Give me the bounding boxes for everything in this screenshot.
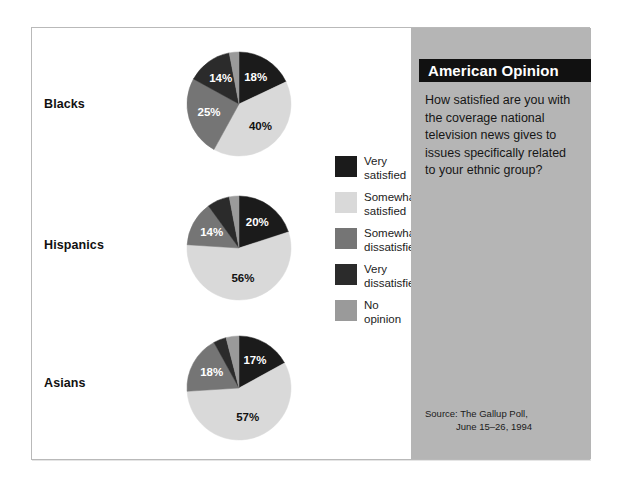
legend-swatch-somewhat-dissatisfied [335,228,357,249]
pie-group-hispanics: Hispanics 20%56%14%7%3% [32,176,332,316]
pie-chart-hispanics: 20%56%14%7%3% [148,178,332,320]
pie-slice-label: 17% [243,354,266,366]
panel-question-text: How satisfied are you with the coverage … [425,92,579,180]
pie-slice-label: 57% [236,411,259,423]
legend-label: No opinion [364,299,401,326]
pie-group-label: Hispanics [44,238,154,252]
pie-slice-label: 14% [209,72,232,84]
panel-title: American Opinion [419,62,559,79]
pie-group-label: Blacks [44,97,154,111]
pie-slice-label: 56% [231,272,254,284]
pie-chart-asians: 17%57%18%4%4% [148,318,332,460]
pie-slice-label: 20% [246,216,269,228]
pie-slice-label: 25% [197,106,220,118]
pie-group-label: Asians [44,376,154,390]
legend-swatch-very-satisfied [335,156,357,177]
pie-group-blacks: Blacks 18%40%25%14%3% [32,32,332,177]
american-opinion-panel: American Opinion How satisfied are you w… [411,28,591,459]
pie-group-asians: Asians 17%57%18%4%4% [32,316,332,451]
source-line-2: June 15–26, 1994 [425,420,583,433]
legend-swatch-no-opinion [335,300,357,321]
panel-source-note: Source: The Gallup Poll, June 15–26, 199… [425,407,583,433]
legend-swatch-very-dissatisfied [335,264,357,285]
pie-slice-label: 18% [200,366,223,378]
source-line-1: Source: The Gallup Poll, [425,408,528,419]
legend-swatch-somewhat-satisfied [335,192,357,213]
legend-label: Very satisfied [364,155,406,182]
chart-figure: Blacks 18%40%25%14%3% Hispanics 20%56%14… [31,27,590,460]
panel-header-bar: American Opinion [419,59,591,82]
pie-chart-blacks: 18%40%25%14%3% [148,34,332,176]
pie-slice-label: 40% [249,120,272,132]
pie-charts-area: Blacks 18%40%25%14%3% Hispanics 20%56%14… [32,28,411,459]
pie-slice-label: 18% [244,71,267,83]
pie-slice-label: 14% [200,226,223,238]
